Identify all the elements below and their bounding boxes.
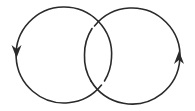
hopf-link-diagram: Two interlocking oriented circles (Hopf … bbox=[0, 0, 195, 111]
left-circle-inner-arc bbox=[98, 21, 112, 81]
right-circle bbox=[91, 8, 180, 104]
left-circle bbox=[16, 7, 101, 103]
link-diagram-svg bbox=[0, 0, 195, 111]
right-circle-inner-arc bbox=[84, 29, 92, 82]
